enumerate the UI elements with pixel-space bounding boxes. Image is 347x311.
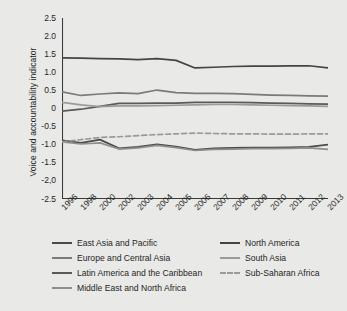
legend-swatch-solid [52,287,72,289]
y-tick-label: 2.5 [28,14,56,23]
legend-swatch-solid [52,257,72,259]
legend-item[interactable]: East Asia and Pacific [52,238,157,248]
legend-swatch-solid [220,257,240,259]
legend-item[interactable]: Sub-Saharan Africa [220,268,320,278]
legend-item[interactable]: Latin America and the Caribbean [52,268,202,278]
y-tick-label: -1.0 [28,140,56,149]
legend-swatch-solid [52,272,72,274]
legend-item[interactable]: South Asia [220,253,286,263]
chart-legend: East Asia and PacificEurope and Central … [52,238,347,300]
legend-label: Europe and Central Asia [77,253,170,263]
legend-item[interactable]: Europe and Central Asia [52,253,170,263]
y-tick-label: -0.5 [28,122,56,131]
legend-label: East Asia and Pacific [77,238,157,248]
y-tick-label: -1.5 [28,158,56,167]
series-line-europe-and-central-asia [62,90,328,96]
legend-swatch-solid [52,242,72,244]
legend-label: Middle East and North Africa [77,283,186,293]
y-tick-label: 0.5 [28,86,56,95]
legend-label: Sub-Saharan Africa [245,268,320,278]
series-canvas [62,18,328,199]
y-tick-label: 0 [28,104,56,113]
chart-figure: Voice and accountability indicator 2.52.… [0,0,347,311]
y-tick-label: -2,0 [28,176,56,185]
y-tick-label: 1.0 [28,68,56,77]
y-tick-label: -2.5 [28,195,56,204]
legend-swatch-dashed [220,272,240,274]
legend-label: North America [245,238,299,248]
y-tick-label: 1.5 [28,50,56,59]
legend-label: South Asia [245,253,286,263]
legend-item[interactable]: Middle East and North Africa [52,283,186,293]
legend-item[interactable]: North America [220,238,299,248]
legend-swatch-solid [220,242,240,244]
plot-area [62,18,328,199]
series-line-north-america [62,58,328,68]
legend-label: Latin America and the Caribbean [77,268,202,278]
y-tick-label: 2.0 [28,32,56,41]
